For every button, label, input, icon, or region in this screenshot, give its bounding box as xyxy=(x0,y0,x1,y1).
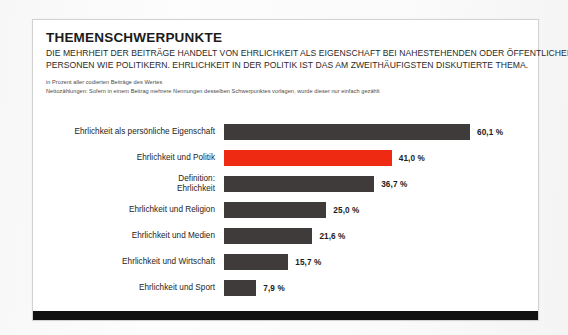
bar-row: Ehrlichkeit und Medien21,6 % xyxy=(33,223,540,249)
chart-card: THEMENSCHWERPUNKTE DIE MEHRHEIT DER BEIT… xyxy=(32,19,539,321)
bar-row: Ehrlichkeit und Sport7,9 % xyxy=(33,275,540,301)
bar-category-label: Ehrlichkeit und Sport xyxy=(33,283,224,293)
bar xyxy=(224,124,470,140)
bar-chart-plot: Ehrlichkeit als persönliche Eigenschaft6… xyxy=(33,119,540,314)
card-bottom-rule xyxy=(33,311,538,320)
bar-row: Ehrlichkeit als persönliche Eigenschaft6… xyxy=(33,119,540,145)
bar xyxy=(224,176,374,192)
bar-value-label: 15,7 % xyxy=(295,258,321,267)
subtitle-line-1: DIE MEHRHEIT DER BEITRÄGE HANDELT VON EH… xyxy=(46,48,528,59)
chart-notes: in Prozent aller codierten Beiträge des … xyxy=(46,78,528,95)
bar-track: 25,0 % xyxy=(224,197,540,223)
bar-row: Ehrlichkeit und Wirtschaft15,7 % xyxy=(33,249,540,275)
bar-category-label: Ehrlichkeit und Politik xyxy=(33,153,224,163)
page-title: THEMENSCHWERPUNKTE xyxy=(46,30,528,46)
bar-value-label: 36,7 % xyxy=(381,180,407,189)
bar-track: 41,0 % xyxy=(224,145,540,171)
bar-row: Ehrlichkeit und Religion25,0 % xyxy=(33,197,540,223)
bar xyxy=(224,202,326,218)
bar-category-label: Ehrlichkeit und Religion xyxy=(33,205,224,215)
bar-track: 60,1 % xyxy=(224,119,540,145)
bar xyxy=(224,228,312,244)
bar-value-label: 7,9 % xyxy=(263,284,284,293)
bar-value-label: 60,1 % xyxy=(477,128,503,137)
bar-row: Ehrlichkeit und Politik41,0 % xyxy=(33,145,540,171)
bar-track: 21,6 % xyxy=(224,223,540,249)
page-background: THEMENSCHWERPUNKTE DIE MEHRHEIT DER BEIT… xyxy=(0,0,568,335)
bar-value-label: 25,0 % xyxy=(333,206,359,215)
bar-value-label: 41,0 % xyxy=(399,154,425,163)
bar-track: 36,7 % xyxy=(224,171,540,197)
bar-category-label: Ehrlichkeit und Wirtschaft xyxy=(33,257,224,267)
bar xyxy=(224,254,288,270)
bar-track: 7,9 % xyxy=(224,275,540,301)
bar-category-label: Definition: Ehrlichkeit xyxy=(33,174,224,194)
chart-header: THEMENSCHWERPUNKTE DIE MEHRHEIT DER BEIT… xyxy=(46,30,528,95)
note-line-unit: in Prozent aller codierten Beiträge des … xyxy=(46,78,528,87)
bar-row: Definition: Ehrlichkeit36,7 % xyxy=(33,171,540,197)
note-line-method: Nettozählungen: Sofern in einem Beitrag … xyxy=(46,87,528,96)
bar-highlight xyxy=(224,150,392,166)
subtitle-line-2: PERSONEN WIE POLITIKERN. EHRLICHKEIT IN … xyxy=(46,60,528,71)
bar-category-label: Ehrlichkeit als persönliche Eigenschaft xyxy=(33,127,224,137)
bar-track: 15,7 % xyxy=(224,249,540,275)
bar-category-label: Ehrlichkeit und Medien xyxy=(33,231,224,241)
bar xyxy=(224,280,256,296)
bar-value-label: 21,6 % xyxy=(319,232,345,241)
